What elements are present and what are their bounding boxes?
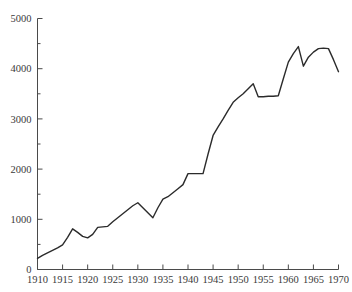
x-tick-label: 1940	[178, 274, 199, 285]
x-tick-label: 1935	[152, 274, 173, 285]
y-tick-label: 4000	[11, 63, 32, 74]
x-tick-label: 1945	[203, 274, 224, 285]
x-tick-label: 1910	[27, 274, 48, 285]
x-tick-label: 1925	[102, 274, 123, 285]
x-tick-label: 1965	[303, 274, 324, 285]
y-tick-label: 2000	[11, 164, 32, 175]
chart-background	[0, 0, 352, 292]
x-tick-label: 1950	[228, 274, 249, 285]
x-tick-label: 1920	[77, 274, 98, 285]
y-tick-label: 5000	[11, 13, 32, 24]
y-tick-label: 1000	[11, 214, 32, 225]
x-tick-label: 1955	[253, 274, 274, 285]
x-tick-label: 1915	[52, 274, 73, 285]
line-chart: 010002000300040005000 191019151920192519…	[0, 0, 352, 292]
x-tick-label: 1960	[278, 274, 299, 285]
chart-canvas: 010002000300040005000 191019151920192519…	[0, 0, 352, 292]
x-tick-label: 1930	[127, 274, 148, 285]
x-tick-label: 1970	[328, 274, 349, 285]
y-tick-label: 3000	[11, 114, 32, 125]
